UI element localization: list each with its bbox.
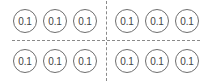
horizontal-divider [12, 40, 200, 41]
cell-r1-c0: 0.1 [13, 49, 37, 73]
cell-r1-c3: 0.1 [115, 49, 139, 73]
cell-r0-c2: 0.1 [73, 9, 97, 33]
cell-r1-c5: 0.1 [175, 49, 199, 73]
cell-r1-c1: 0.1 [43, 49, 67, 73]
cell-r0-c5: 0.1 [175, 9, 199, 33]
cell-r0-c3: 0.1 [115, 9, 139, 33]
cell-r0-c0: 0.1 [13, 9, 37, 33]
cell-r0-c1: 0.1 [43, 9, 67, 33]
vertical-divider [106, 1, 107, 81]
cell-r1-c2: 0.1 [73, 49, 97, 73]
cell-r0-c4: 0.1 [145, 9, 169, 33]
cell-r1-c4: 0.1 [145, 49, 169, 73]
quadrant-grid: 0.1 0.1 0.1 0.1 0.1 0.1 0.1 0.1 0.1 0.1 … [0, 0, 213, 81]
